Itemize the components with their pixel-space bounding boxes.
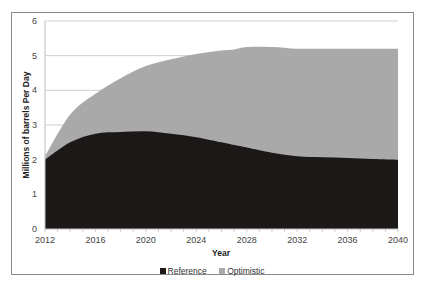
y-tick-label: 5 [32,51,37,61]
y-axis-title: Millions of barrels Per Day [21,71,31,178]
x-tick-label: 2028 [237,235,257,245]
legend-item-reference: Reference [160,266,207,276]
x-tick-label: 2036 [338,235,358,245]
legend-swatch-optimistic [219,268,225,274]
x-tick-label: 2040 [388,235,408,245]
x-axis-title: Year [212,248,231,258]
y-tick-label: 0 [32,224,37,234]
y-tick-label: 1 [32,189,37,199]
chart-areas [45,47,398,229]
legend-label-reference: Reference [168,266,207,276]
area-chart: 012345620122016202020242028203220362040 … [0,0,424,300]
y-tick-label: 6 [32,16,37,26]
x-tick-label: 2016 [85,235,105,245]
y-tick-label: 2 [32,155,37,165]
y-tick-label: 4 [32,85,37,95]
y-tick-label: 3 [32,120,37,130]
x-tick-label: 2032 [287,235,307,245]
legend: Reference Optimistic [0,266,424,276]
legend-label-optimistic: Optimistic [227,266,264,276]
legend-item-optimistic: Optimistic [219,266,264,276]
x-tick-label: 2020 [136,235,156,245]
legend-swatch-reference [160,268,166,274]
x-tick-label: 2012 [35,235,55,245]
x-tick-label: 2024 [186,235,206,245]
